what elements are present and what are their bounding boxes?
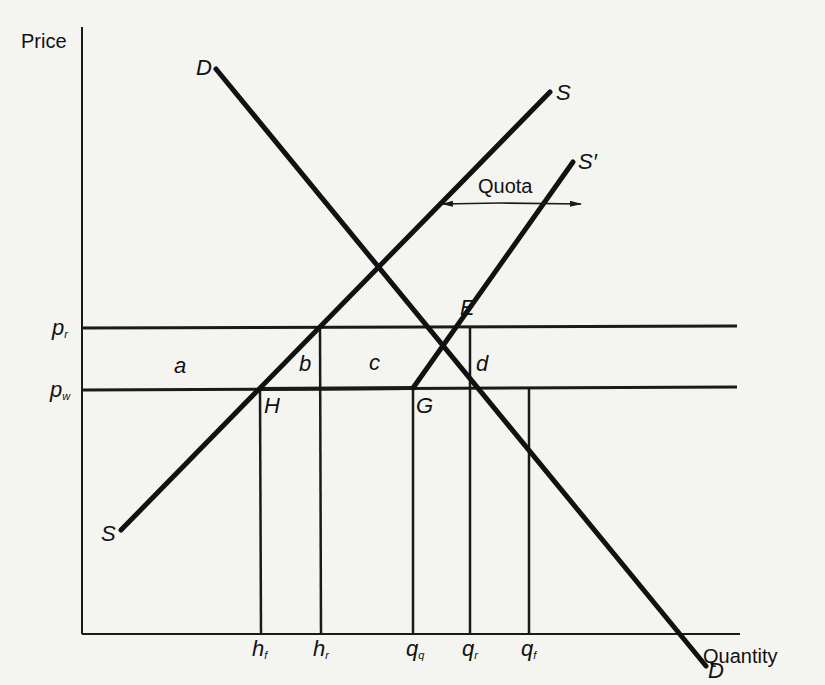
demand-curve (216, 69, 706, 666)
quota-arrow (500, 203, 581, 204)
point-label-g: G (416, 393, 433, 418)
quantity-label-q-r: qr (462, 636, 479, 661)
point-label-e: E (460, 295, 475, 320)
quantity-label-h-f: hf (252, 636, 268, 661)
area-label-d: d (476, 351, 489, 376)
drop-line-h-r (320, 328, 321, 634)
demand-label-bottom: D (708, 658, 724, 683)
drop-line-h-f (260, 390, 261, 634)
supply-curve (121, 92, 550, 530)
price-line-p-r (82, 326, 737, 328)
point-label-h: H (264, 393, 280, 418)
area-label-c: c (369, 350, 380, 375)
quota-label: Quota (478, 175, 533, 197)
quantity-label-h-r: hr (313, 636, 330, 661)
supply-label-bottom: S (101, 521, 116, 546)
segment-h-to-g (258, 388, 413, 389)
area-label-a: a (174, 353, 186, 378)
area-label-b: b (299, 351, 311, 376)
quota-arrow (442, 203, 500, 204)
price-label-p-r: pr (51, 315, 69, 340)
demand-label-top: D (196, 55, 212, 80)
quota-supply-demand-diagram: Price Quantity Quota D D S S S′ pr pw hf… (0, 0, 825, 685)
quantity-label-q-q: qq (406, 636, 425, 661)
quantity-label-q-f: qf (521, 636, 537, 661)
price-label-p-w: pw (49, 377, 71, 402)
supply-label-top: S (556, 80, 571, 105)
y-axis-label: Price (21, 30, 67, 52)
shifted-supply-label: S′ (578, 149, 598, 174)
